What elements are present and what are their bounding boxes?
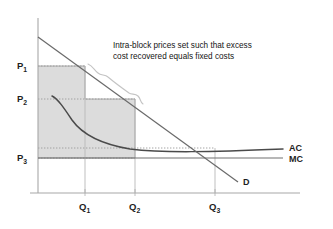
diagram-canvas: AC MC D P1 P2 P3 Q1 Q2 Q3 Intra-block pr… <box>0 0 333 229</box>
mc-label: MC <box>289 154 303 164</box>
annotation-line-1: Intra-block prices set such that excess <box>113 41 252 50</box>
x-label-q1: Q1 <box>79 201 90 214</box>
y-label-p1: P1 <box>17 60 27 73</box>
d-label: D <box>243 177 250 187</box>
annotation-line-2: cost recovered equals fixed costs <box>113 52 234 61</box>
y-label-p3: P3 <box>17 152 27 165</box>
x-label-q3: Q3 <box>209 201 220 214</box>
y-label-p2: P2 <box>17 93 27 106</box>
shaded-block-1 <box>38 66 85 158</box>
curly-brace-icon <box>88 64 143 104</box>
ac-label: AC <box>289 143 302 153</box>
x-label-q2: Q2 <box>129 201 140 214</box>
economics-diagram-figure: AC MC D P1 P2 P3 Q1 Q2 Q3 Intra-block pr… <box>0 0 333 229</box>
